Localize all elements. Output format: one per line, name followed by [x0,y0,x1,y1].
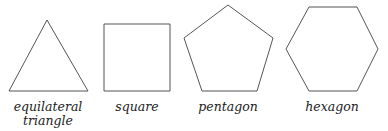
square-shape [104,24,170,91]
hexagon-label: hexagon [284,100,380,114]
pentagon-label: pentagon [180,100,276,114]
triangle-label: equilateral triangle [0,100,96,128]
triangle-label-line1: equilateral [0,100,96,114]
triangle-label-line2: triangle [0,114,96,128]
hexagon-shape [286,7,378,91]
pentagon-shape [184,5,273,91]
triangle-shape [9,20,88,91]
square-label: square [96,100,178,114]
